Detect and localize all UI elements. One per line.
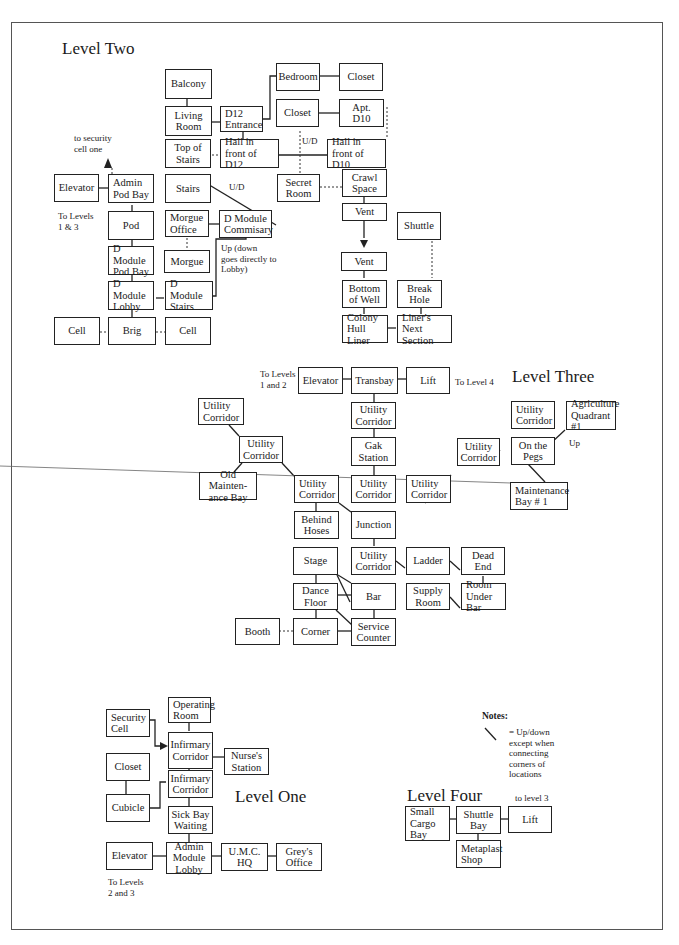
room-nurses-station[interactable]: Nurse's Station xyxy=(224,748,269,775)
room-booth[interactable]: Booth xyxy=(235,618,280,645)
room-bar[interactable]: Bar xyxy=(351,583,396,610)
room-break-hole[interactable]: Break Hole xyxy=(397,280,442,308)
note-to-level-4: To Level 4 xyxy=(455,377,494,388)
room-operating-room[interactable]: Operating Room xyxy=(168,697,211,723)
note-commisary: Up (down goes directly to Lobby) xyxy=(221,243,277,275)
room-on-the-pegs[interactable]: On the Pegs xyxy=(511,437,555,465)
room-stage[interactable]: Stage xyxy=(293,547,338,575)
room-ladder[interactable]: Ladder xyxy=(406,547,450,575)
room-closet-d12[interactable]: Closet xyxy=(339,63,383,91)
room-admin-module-lobby[interactable]: Admin Module Lobby xyxy=(166,842,212,874)
room-vent-lower[interactable]: Vent xyxy=(341,252,387,271)
room-closet-l1[interactable]: Closet xyxy=(106,753,150,781)
room-d-module-stairs[interactable]: D Module Stairs xyxy=(165,281,213,310)
room-vent-upper[interactable]: Vent xyxy=(342,203,387,221)
room-service-counter[interactable]: Service Counter xyxy=(351,618,396,646)
room-d12-entrance[interactable]: D12 Entrance xyxy=(220,106,263,132)
room-hall-front-d10[interactable]: Hall in front of D10 xyxy=(327,139,386,168)
room-top-of-stairs[interactable]: Top of Stairs xyxy=(165,139,211,168)
room-small-cargo-bay[interactable]: Small Cargo Bay xyxy=(405,806,450,841)
note-ud-closet: U/D xyxy=(302,136,318,147)
room-behind-hoses[interactable]: Behind Hoses xyxy=(294,511,339,539)
note-ud-stairs: U/D xyxy=(229,182,245,193)
room-morgue-office[interactable]: Morgue Office xyxy=(165,210,209,237)
room-utility-corridor-left-low[interactable]: Utility Corridor xyxy=(294,475,339,503)
room-utility-corridor-left-mid[interactable]: Utility Corridor xyxy=(239,436,283,463)
room-d-module-pod-bay[interactable]: D Module Pod Bay xyxy=(108,246,154,275)
room-elevator-l3[interactable]: Elevator xyxy=(298,367,343,394)
note-to-levels-2-3: To Levels 2 and 3 xyxy=(108,877,144,898)
room-admin-pod-bay[interactable]: Admin Pod Bay xyxy=(108,174,154,203)
right-arrow-icon xyxy=(160,742,168,750)
room-old-maintenance-bay[interactable]: Old Mainten- ance Bay xyxy=(199,472,257,500)
note-to-levels-1-3: To Levels 1 & 3 xyxy=(58,211,94,232)
room-secret-room[interactable]: Secret Room xyxy=(277,174,320,202)
room-elevator-l2[interactable]: Elevator xyxy=(54,174,99,202)
up-arrow-icon xyxy=(104,158,112,168)
room-sick-bay-waiting[interactable]: Sick Bay Waiting xyxy=(168,806,213,834)
room-utility-corridor-right-mid[interactable]: Utility Corridor xyxy=(457,438,500,466)
level-one-title: Level One xyxy=(235,787,306,807)
room-agriculture-quadrant-1[interactable]: Agriculture Quadrant #1 xyxy=(566,401,616,430)
room-lift-l3[interactable]: Lift xyxy=(406,367,450,394)
note-to-security-cell: to security cell one xyxy=(74,133,112,154)
room-morgue[interactable]: Morgue xyxy=(164,250,210,273)
room-shuttle[interactable]: Shuttle xyxy=(397,212,441,240)
room-corner[interactable]: Corner xyxy=(293,618,338,645)
level-two-title: Level Two xyxy=(62,39,135,59)
room-liners-next-section[interactable]: Liner's Next Section xyxy=(397,315,452,343)
room-utility-corridor-right-low[interactable]: Utility Corridor xyxy=(406,475,451,503)
room-pod[interactable]: Pod xyxy=(108,211,154,240)
down-arrow-icon xyxy=(360,240,368,248)
room-apt-d10[interactable]: Apt. D10 xyxy=(339,99,384,127)
room-utility-corridor-bar[interactable]: Utility Corridor xyxy=(351,547,396,575)
room-bedroom[interactable]: Bedroom xyxy=(276,63,320,91)
room-dance-floor[interactable]: Dance Floor xyxy=(293,583,338,610)
note-up: Up xyxy=(569,438,580,449)
room-gak-station[interactable]: Gak Station xyxy=(351,437,396,466)
room-shuttle-bay[interactable]: Shuttle Bay xyxy=(456,806,501,834)
room-living-room[interactable]: Living Room xyxy=(165,106,212,136)
room-security-cell[interactable]: Security Cell xyxy=(106,709,150,737)
room-utility-corridor-right-top[interactable]: Utility Corridor xyxy=(511,401,555,429)
room-cell-left[interactable]: Cell xyxy=(54,317,100,345)
room-closet-d10[interactable]: Closet xyxy=(276,99,319,127)
room-utility-corridor-top[interactable]: Utility Corridor xyxy=(351,402,396,429)
legend-text: = Up/down except when connecting corners… xyxy=(509,727,554,780)
room-junction[interactable]: Junction xyxy=(351,511,396,539)
room-d-module-commisary[interactable]: D Module Commisary xyxy=(219,210,272,238)
room-transbay[interactable]: Transbay xyxy=(351,367,398,394)
room-elevator-l1[interactable]: Elevator xyxy=(106,842,153,870)
room-balcony[interactable]: Balcony xyxy=(165,69,212,99)
room-under-bar[interactable]: Room Under Bar xyxy=(461,583,506,610)
room-infirmary-corridor-lower[interactable]: Infirmary Corridor xyxy=(168,770,213,798)
room-maintenance-bay-1[interactable]: Maintenance Bay # 1 xyxy=(510,482,568,510)
room-infirmary-corridor-upper[interactable]: Infirmary Corridor xyxy=(168,732,213,769)
level-four-title: Level Four xyxy=(407,786,482,806)
level-three-title: Level Three xyxy=(512,367,594,387)
room-bottom-of-well[interactable]: Bottom of Well xyxy=(342,280,387,308)
note-to-level-3: to level 3 xyxy=(515,793,549,804)
room-cell-right[interactable]: Cell xyxy=(165,317,211,345)
room-hall-front-d12[interactable]: Hall in front of D12 xyxy=(220,139,279,168)
room-lift-l4[interactable]: Lift xyxy=(508,806,552,833)
room-utility-corridor-center[interactable]: Utility Corridor xyxy=(351,475,396,503)
room-dead-end[interactable]: Dead End xyxy=(461,547,505,575)
room-d-module-lobby[interactable]: D Module Lobby xyxy=(108,281,154,310)
room-colony-hull-liner[interactable]: Colony Hull Liner xyxy=(342,315,388,343)
room-umc-hq[interactable]: U.M.C. HQ xyxy=(221,843,268,871)
room-utility-corridor-far-left[interactable]: Utility Corridor xyxy=(198,398,244,425)
room-greys-office[interactable]: Grey's Office xyxy=(276,843,322,871)
room-cubicle[interactable]: Cubicle xyxy=(106,794,150,822)
room-metaplast-shop[interactable]: Metaplast Shop xyxy=(456,840,501,868)
room-stairs[interactable]: Stairs xyxy=(165,174,211,203)
room-supply-room[interactable]: Supply Room xyxy=(406,583,450,610)
room-crawl-space[interactable]: Crawl Space xyxy=(342,169,387,197)
note-to-levels-1-2: To Levels 1 and 2 xyxy=(260,369,296,390)
legend-heading: Notes: xyxy=(482,711,508,721)
room-brig[interactable]: Brig xyxy=(108,317,156,345)
